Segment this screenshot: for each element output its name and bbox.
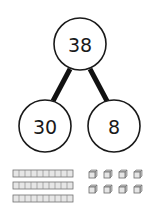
unit-cubes-group [89,170,142,193]
tens-rod [13,195,73,202]
unit-cube [104,185,112,193]
unit-cube [134,170,142,178]
unit-cube [119,185,127,193]
whole-value: 38 [68,34,92,56]
unit-cube [89,185,97,193]
tens-rod [13,182,73,189]
part-value-ones: 8 [108,116,120,138]
number-bond-diagram: 38 30 8 [0,0,154,222]
unit-cube [89,170,97,178]
link-whole-to-part-ones [90,69,107,101]
whole-node: 38 [54,18,106,70]
unit-cube [104,170,112,178]
tens-rods-group [13,170,73,202]
part-node-ones: 8 [88,100,140,152]
part-node-tens: 30 [19,100,71,152]
link-whole-to-part-tens [53,69,70,101]
unit-cube [119,170,127,178]
tens-rod [13,170,73,177]
unit-cube [134,185,142,193]
part-value-tens: 30 [33,116,57,138]
